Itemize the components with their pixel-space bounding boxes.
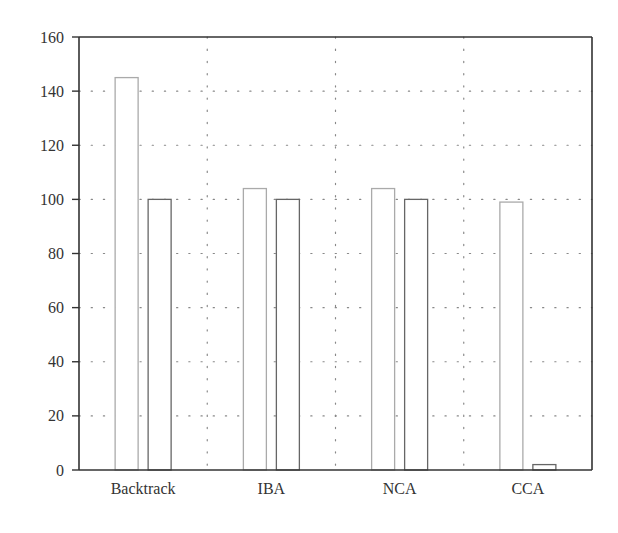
bar-iba-series-2 — [276, 199, 299, 470]
y-tick-label: 40 — [48, 353, 64, 370]
x-axis-labels: BacktrackIBANCACCA — [111, 480, 545, 497]
y-tick-label: 0 — [56, 462, 64, 479]
bar-cca-series-2 — [533, 465, 556, 470]
y-tick-label: 160 — [40, 29, 64, 46]
x-category-label: IBA — [258, 480, 286, 497]
y-tick-label: 80 — [48, 245, 64, 262]
bar-iba-series-1 — [243, 189, 266, 470]
bar-cca-series-1 — [500, 202, 523, 470]
bar-chart: 020406080100120140160 BacktrackIBANCACCA — [0, 0, 618, 533]
y-tick-label: 60 — [48, 299, 64, 316]
y-tick-label: 20 — [48, 407, 64, 424]
y-tick-label: 120 — [40, 137, 64, 154]
bar-backtrack-series-2 — [148, 199, 171, 470]
bar-nca-series-2 — [405, 199, 428, 470]
y-tick-label: 100 — [40, 191, 64, 208]
y-tick-label: 140 — [40, 83, 64, 100]
x-category-label: NCA — [383, 480, 417, 497]
y-axis-ticks: 020406080100120140160 — [40, 29, 79, 479]
bar-nca-series-1 — [372, 189, 395, 470]
bar-backtrack-series-1 — [115, 78, 138, 470]
bars — [115, 78, 556, 470]
x-category-label: CCA — [511, 480, 544, 497]
x-category-label: Backtrack — [111, 480, 176, 497]
